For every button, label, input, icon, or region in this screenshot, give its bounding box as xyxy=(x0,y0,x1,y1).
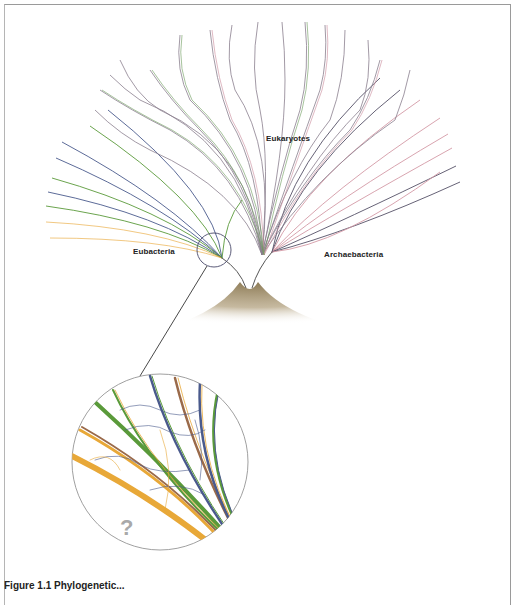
figure-caption: Figure 1.1 Phylogenetic... xyxy=(4,580,125,591)
label-archaebacteria: Archaebacteria xyxy=(324,250,383,259)
root-base xyxy=(140,282,370,335)
label-eukaryotes: Eukaryotes xyxy=(266,134,310,143)
eukaryote-branches-accent xyxy=(102,22,382,255)
label-eubacteria: Eubacteria xyxy=(133,247,175,256)
magnified-lens xyxy=(70,374,253,560)
eubacteria-branches xyxy=(46,110,242,258)
unknown-question-mark: ? xyxy=(120,515,133,541)
